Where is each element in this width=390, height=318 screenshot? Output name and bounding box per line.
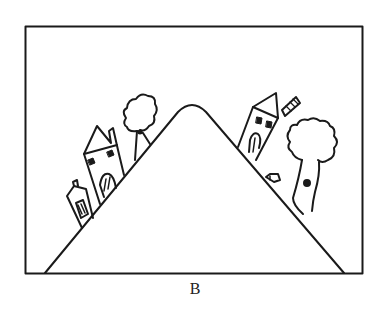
- hill-drawing-figure: [0, 0, 390, 318]
- left-tree-icon: [124, 95, 157, 160]
- figure-caption: B: [0, 280, 390, 298]
- tall-house-icon: [84, 126, 124, 204]
- right-tree-icon: [288, 118, 338, 214]
- stone-icon: [266, 174, 280, 182]
- hill-outline: [45, 105, 344, 273]
